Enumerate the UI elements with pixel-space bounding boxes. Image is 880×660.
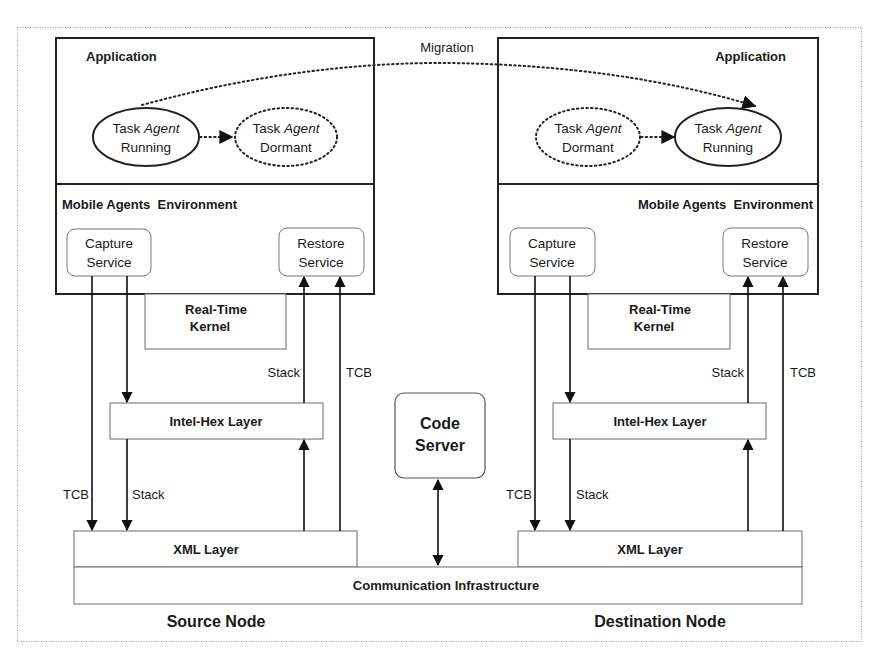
- source-capture-stack-label: Stack: [132, 487, 165, 502]
- destination-node: Application Task Agent Dormant Task Agen…: [498, 38, 818, 630]
- code-server: [395, 393, 485, 478]
- code-server-line2: Server: [415, 437, 465, 454]
- source-restore-service-line2: Service: [298, 255, 343, 270]
- source-capture-service-line2: Service: [86, 255, 131, 270]
- destination-capture-service-line2: Service: [529, 255, 574, 270]
- source-capture-tcb-label: TCB: [63, 487, 89, 502]
- source-agent-dormant-line1: Task Agent: [253, 121, 321, 136]
- communication-infrastructure-label: Communication Infrastructure: [353, 578, 539, 593]
- source-environment-label: Mobile Agents Environment: [62, 197, 238, 212]
- destination-agent-running: [675, 108, 781, 166]
- source-application-label: Application: [86, 49, 157, 64]
- destination-application-label: Application: [715, 49, 786, 64]
- source-node-label: Source Node: [167, 613, 266, 630]
- source-agent-running-line1: Task Agent: [113, 121, 181, 136]
- destination-kernel-line2: Kernel: [634, 319, 674, 334]
- source-kernel-line1: Real-Time: [185, 302, 247, 317]
- code-server-line1: Code: [420, 415, 460, 432]
- destination-agent-dormant-line1: Task Agent: [555, 121, 623, 136]
- destination-capture-stack-label: Stack: [576, 487, 609, 502]
- source-agent-running: [93, 108, 199, 166]
- source-node: Application Task Agent Running Task Agen…: [56, 38, 374, 630]
- destination-xml-label: XML Layer: [617, 542, 683, 557]
- destination-node-label: Destination Node: [594, 613, 726, 630]
- destination-capture-service-line1: Capture: [528, 236, 576, 251]
- destination-restore-tcb-label: TCB: [790, 365, 816, 380]
- source-capture-service-line1: Capture: [85, 236, 133, 251]
- destination-restore-service-line1: Restore: [741, 236, 788, 251]
- source-restore-service-line1: Restore: [297, 236, 344, 251]
- source-intel-hex-label: Intel-Hex Layer: [169, 414, 262, 429]
- destination-agent-dormant-line2: Dormant: [562, 140, 614, 155]
- destination-agent-running-line2: Running: [703, 140, 753, 155]
- source-kernel-line2: Kernel: [190, 319, 230, 334]
- destination-restore-service-line2: Service: [742, 255, 787, 270]
- destination-restore-stack-label: Stack: [711, 365, 744, 380]
- destination-agent-running-line1: Task Agent: [695, 121, 763, 136]
- migration-label: Migration: [420, 40, 473, 55]
- migration-diagram: Application Task Agent Running Task Agen…: [0, 0, 880, 660]
- source-restore-tcb-label: TCB: [346, 365, 372, 380]
- destination-intel-hex-label: Intel-Hex Layer: [613, 414, 706, 429]
- source-agent-running-line2: Running: [121, 140, 171, 155]
- destination-kernel-line1: Real-Time: [629, 302, 691, 317]
- destination-environment-label: Mobile Agents Environment: [638, 197, 814, 212]
- source-restore-stack-label: Stack: [267, 365, 300, 380]
- source-agent-dormant-line2: Dormant: [260, 140, 312, 155]
- source-xml-label: XML Layer: [173, 542, 239, 557]
- destination-capture-tcb-label: TCB: [506, 487, 532, 502]
